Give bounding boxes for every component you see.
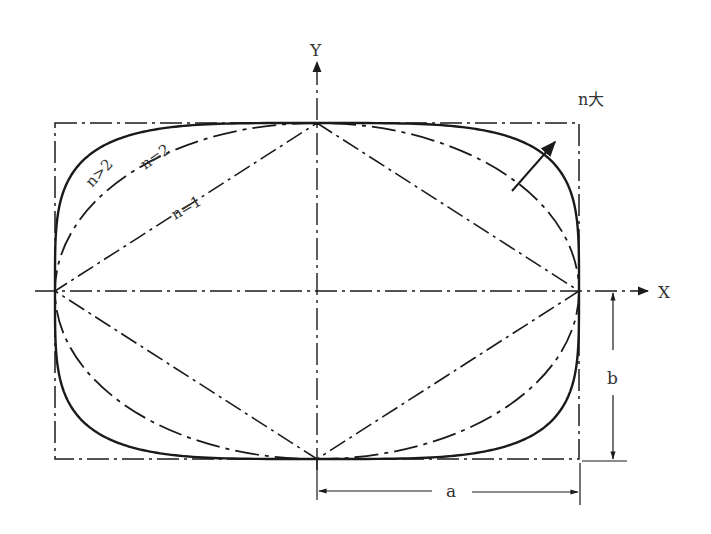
n-increase-arrow [512,142,555,191]
label-n-greater-2: n>2 [82,155,117,191]
x-axis-label: X [658,282,671,302]
superellipse-diagram: Y X n>2 n=2 n=1 n大 b a [0,0,711,534]
dim-a-label: a [446,481,456,501]
y-axis-label: Y [309,40,322,60]
label-n1: n=1 [168,192,205,223]
label-n2: n=2 [137,140,173,173]
n-increase-label: n大 [578,90,604,109]
dim-b-label: b [607,368,618,388]
